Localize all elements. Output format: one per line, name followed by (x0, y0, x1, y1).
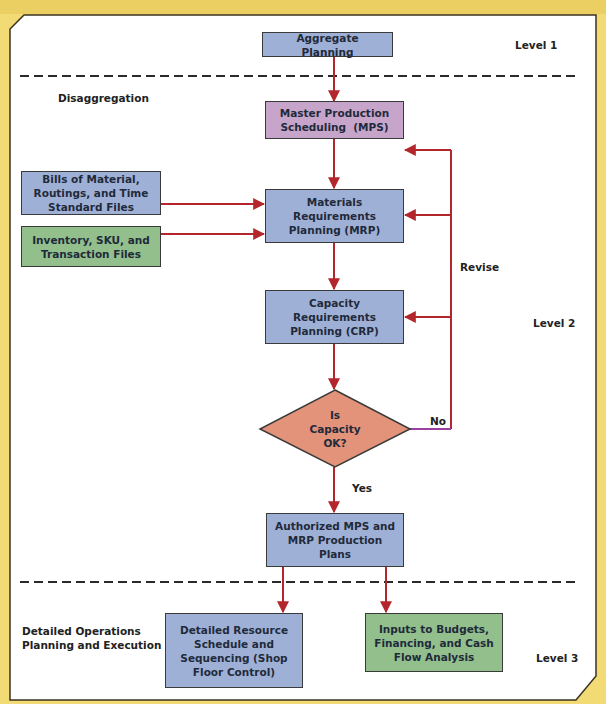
node-inventory-files: Inventory, SKU, andTransaction Files (21, 226, 161, 267)
node-crp-line2: Requirements (293, 311, 376, 323)
node-crp-label: CapacityRequirementsPlanning (CRP) (290, 296, 379, 338)
detailed-operations-line1: Detailed Operations (22, 625, 141, 637)
node-crp: CapacityRequirementsPlanning (CRP) (265, 290, 404, 344)
node-mrp-line2: Requirements (293, 210, 376, 222)
node-authorized-line1: Authorized MPS and (275, 520, 395, 532)
node-crp-line1: Capacity (309, 297, 360, 309)
node-inputs-line2: Financing, and Cash (374, 637, 494, 649)
node-inputs-to-budgets: Inputs to Budgets,Financing, and CashFlo… (365, 613, 503, 672)
node-mrp-label: MaterialsRequirementsPlanning (MRP) (289, 195, 380, 237)
disaggregation-label: Disaggregation (58, 91, 149, 105)
node-detailed-line4: Floor Control) (193, 666, 275, 678)
node-detailed-resource-schedule: Detailed ResourceSchedule andSequencing … (165, 613, 303, 688)
level-3-label: Level 3 (536, 651, 578, 665)
node-detailed-line2: Schedule and (194, 638, 274, 650)
node-inputs-label: Inputs to Budgets,Financing, and CashFlo… (374, 622, 494, 664)
node-detailed-label: Detailed ResourceSchedule andSequencing … (180, 623, 288, 679)
node-mrp-line1: Materials (307, 196, 362, 208)
decision-label: IsCapacityOK? (295, 408, 375, 450)
node-bom-files: Bills of Material,Routings, and TimeStan… (21, 171, 161, 215)
node-inputs-line1: Inputs to Budgets, (379, 623, 489, 635)
node-aggregate-planning: Aggregate Planning (262, 32, 393, 57)
node-mps-label: Master ProductionScheduling (MPS) (280, 106, 389, 134)
node-mrp: MaterialsRequirementsPlanning (MRP) (265, 189, 404, 243)
decision-line2: Capacity (309, 423, 360, 435)
node-bom-line1: Bills of Material, (42, 173, 139, 185)
node-bom-line2: Routings, and Time (34, 187, 149, 199)
node-detailed-line1: Detailed Resource (180, 624, 288, 636)
node-inputs-line3: Flow Analysis (394, 651, 475, 663)
node-crp-line3: Planning (CRP) (290, 325, 379, 337)
detailed-operations-label: Detailed OperationsPlanning and Executio… (22, 624, 161, 652)
no-label: No (430, 414, 446, 428)
decision-line1: Is (330, 409, 340, 421)
node-bom-line3: Standard Files (48, 201, 134, 213)
revise-label: Revise (460, 260, 499, 274)
detailed-operations-line2: Planning and Execution (22, 639, 161, 651)
node-mps-line2: Scheduling (MPS) (280, 121, 388, 133)
node-authorized-line3: Plans (319, 548, 351, 560)
yes-label: Yes (352, 481, 372, 495)
node-mrp-line3: Planning (MRP) (289, 224, 380, 236)
level-2-label: Level 2 (533, 316, 575, 330)
level-1-label: Level 1 (515, 38, 557, 52)
node-authorized-line2: MRP Production (288, 534, 383, 546)
node-inventory-label: Inventory, SKU, andTransaction Files (32, 233, 150, 261)
node-authorized-label: Authorized MPS andMRP ProductionPlans (275, 519, 395, 561)
node-mps-line1: Master Production (280, 107, 389, 119)
decision-line3: OK? (323, 437, 346, 449)
node-bom-label: Bills of Material,Routings, and TimeStan… (34, 172, 149, 214)
node-aggregate-planning-label: Aggregate Planning (269, 31, 386, 59)
node-authorized-plans: Authorized MPS andMRP ProductionPlans (266, 513, 404, 567)
node-inventory-line1: Inventory, SKU, and (32, 234, 150, 246)
node-mps: Master ProductionScheduling (MPS) (265, 101, 404, 139)
node-inventory-line2: Transaction Files (41, 248, 141, 260)
node-detailed-line3: Sequencing (Shop (180, 652, 287, 664)
